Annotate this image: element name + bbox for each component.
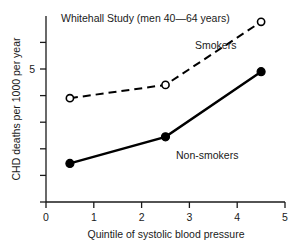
series-label-smokers: Smokers — [195, 39, 236, 51]
x-tick-label-3: 3 — [186, 211, 192, 223]
chart-background — [0, 0, 302, 243]
y-axis-title: CHD deaths per 1000 per year — [10, 37, 22, 180]
non-smokers-point-1 — [66, 159, 74, 167]
series-label-non-smokers: Non-smokers — [176, 149, 238, 161]
chart-title: Whitehall Study (men 40—64 years) — [61, 12, 230, 24]
smokers-point-1 — [66, 95, 73, 102]
non-smokers-point-2 — [162, 133, 170, 141]
x-axis-title: Quintile of systolic blood pressure — [88, 228, 245, 240]
smokers-point-2 — [162, 81, 169, 88]
x-tick-label-2: 2 — [139, 211, 145, 223]
smokers-point-3 — [258, 18, 265, 25]
chart-figure: 5 0 1 2 3 4 5 Whitehall Study (men 40—64… — [0, 0, 302, 243]
x-tick-label-1: 1 — [91, 211, 97, 223]
y-tick-label-5: 5 — [29, 63, 35, 75]
x-tick-label-0: 0 — [43, 211, 49, 223]
non-smokers-point-3 — [257, 68, 265, 76]
x-tick-label-4: 4 — [234, 211, 240, 223]
chart-canvas: 5 0 1 2 3 4 5 Whitehall Study (men 40—64… — [0, 0, 302, 243]
x-tick-label-5: 5 — [282, 211, 288, 223]
